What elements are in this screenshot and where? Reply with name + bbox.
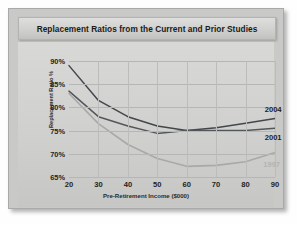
y-gridline [69, 177, 275, 178]
page-root: Replacement Ratios from the Current and … [0, 0, 298, 225]
y-axis-tick-label: 90% [50, 57, 65, 66]
y-gridline [69, 154, 275, 155]
x-axis-tick-label: 50 [153, 180, 161, 189]
x-axis-tick-label: 80 [241, 180, 249, 189]
x-gridline [187, 61, 188, 177]
x-gridline [216, 61, 217, 177]
chart-card: Replacement Ratios from the Current and … [8, 8, 284, 209]
series-label-2001: 2001 [265, 133, 282, 142]
x-gridline [246, 61, 247, 177]
x-axis-tick-label: 60 [182, 180, 190, 189]
y-gridline [69, 84, 275, 85]
y-gridline [69, 107, 275, 108]
y-axis-tick-label: 75% [50, 126, 65, 135]
y-axis-tick-label: 70% [50, 149, 65, 158]
chart-title-bar: Replacement Ratios from the Current and … [18, 17, 276, 40]
series-label-1997: 1997 [263, 160, 280, 169]
y-gridline [69, 61, 275, 62]
y-gridline [69, 131, 275, 132]
x-axis-title: Pre-Retirement Income ($000) [18, 192, 274, 199]
x-axis-tick-label: 30 [94, 180, 102, 189]
x-axis-tick-label: 70 [212, 180, 220, 189]
series-lines [69, 61, 275, 177]
series-label-2004: 2004 [265, 105, 282, 114]
series-line-2004 [69, 66, 275, 131]
y-axis-tick-label: 85% [50, 80, 65, 89]
x-axis-tick-label: 90 [271, 180, 279, 189]
x-gridline [157, 61, 158, 177]
x-axis-tick-label: 20 [65, 180, 73, 189]
chart-panel: Replacement Ratio % 65%70%75%80%85%90%20… [18, 42, 274, 207]
x-gridline [128, 61, 129, 177]
plot-area: 65%70%75%80%85%90%2030405060708090200420… [69, 61, 275, 177]
page-title: Replacement Ratios from the Current and … [37, 24, 258, 34]
x-axis-tick-label: 40 [124, 180, 132, 189]
series-line-2001 [69, 91, 275, 133]
y-axis-tick-label: 80% [50, 103, 65, 112]
x-gridline [98, 61, 99, 177]
y-axis-tick-label: 65% [50, 173, 65, 182]
